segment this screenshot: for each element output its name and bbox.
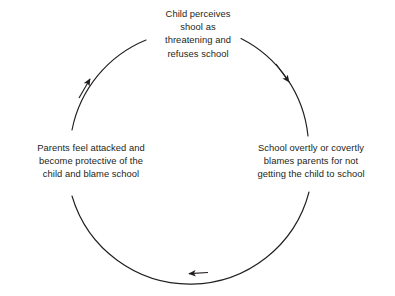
- node-label-parents: Parents feel attacked and become protect…: [8, 141, 174, 181]
- arrowhead-school-to-parents: [189, 273, 208, 274]
- arrowhead-child-to-school: [276, 64, 289, 82]
- node-label-child: Child perceives shool as threatening and…: [128, 7, 268, 60]
- cycle-diagram: Child perceives shool as threatening and…: [0, 0, 395, 296]
- node-label-school: School overtly or covertly blames parent…: [232, 141, 390, 181]
- arc-school-to-parents: [72, 192, 309, 284]
